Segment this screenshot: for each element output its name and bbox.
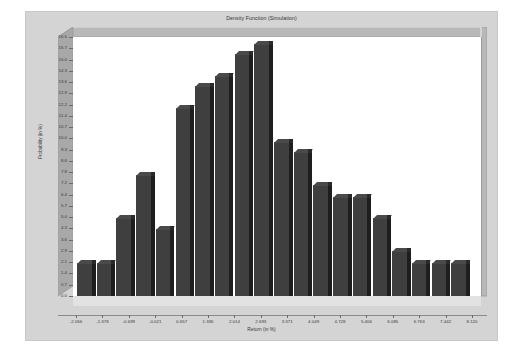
bar-side-face [170,230,174,296]
plot-floor [73,296,481,306]
x-axis: -2.056-1.378-0.699-0.0210.6571.3362.0142… [58,315,487,316]
y-axis-label: 14.3 [58,69,67,73]
y-axis-label: 2.9 [61,249,67,253]
y-axis-label: 2.1 [61,260,67,264]
x-axis-label: -1.378 [96,319,108,324]
bar-side-face [348,198,352,296]
y-axis-label: 4.3 [61,226,67,230]
y-axis-label: 15.7 [58,46,67,50]
bar-side-face [466,264,470,296]
x-axis-tick [287,315,288,318]
x-axis-label: 2.014 [229,319,240,324]
y-axis-title: Probability (in %) [38,124,43,159]
bar-side-face [111,264,115,296]
x-axis-tick [208,315,209,318]
bar-side-face [289,143,293,296]
bar [176,108,191,296]
x-axis-label: 4.049 [308,319,319,324]
x-axis-label: -0.699 [123,319,135,324]
bar [333,197,348,296]
x-axis-label: 8.120 [467,319,478,324]
plot-3d-box: 16.515.715.014.313.612.912.211.410.710.0… [58,27,487,313]
y-axis-label: 5.7 [61,204,67,208]
y-axis-label: 3.6 [61,238,67,242]
bar-side-face [426,264,430,296]
y-axis-label: 8.6 [61,159,67,163]
y-axis-label: 5.0 [61,215,67,219]
y-axis-label: 11.4 [59,114,67,118]
bar [77,263,92,296]
chart-panel: Density Function (Simulation) Probabilit… [25,11,498,341]
y-axis-label: 9.3 [61,148,67,152]
x-axis-tick [340,315,341,318]
bar-side-face [229,77,233,296]
bar [392,251,407,296]
y-axis-label: 0.7 [61,283,67,287]
x-axis-tick [419,315,420,318]
bar [274,142,289,296]
bar [136,175,151,296]
bar-side-face [190,109,194,296]
x-axis-label: 5.406 [361,319,372,324]
x-axis-label: 7.442 [440,319,451,324]
x-axis-label: 0.657 [176,319,187,324]
x-axis-tick [393,315,394,318]
bar [195,86,210,296]
x-axis-tick [472,315,473,318]
x-axis-label: 1.336 [203,319,214,324]
x-axis-tick [102,315,103,318]
bar [97,263,112,296]
bar [215,76,230,296]
bar-side-face [328,186,332,296]
bar [412,263,427,296]
bar-side-face [367,198,371,296]
y-axis-label: 10.0 [58,136,67,140]
bar-side-face [407,252,411,296]
x-axis-tick [129,315,130,318]
bar [353,197,368,296]
x-axis-tick [234,315,235,318]
y-axis-label: 15.0 [58,58,67,62]
y-axis-label: 1.4 [61,271,67,275]
bar-side-face [210,87,214,296]
x-axis-label: 4.728 [335,319,346,324]
bar-side-face [446,264,450,296]
y-axis: 16.515.715.014.313.612.912.211.410.710.0… [58,37,73,296]
y-axis-label: 12.2 [58,103,67,107]
x-axis-label: -2.056 [70,319,82,324]
x-axis-tick [261,315,262,318]
bar [451,263,466,296]
bar-side-face [151,176,155,296]
y-axis-label: 16.5 [58,35,67,39]
y-axis-label: 7.2 [61,181,67,185]
x-axis-tick [76,315,77,318]
bar [156,229,171,296]
y-axis-label: 7.8 [61,170,67,174]
bar-side-face [269,45,273,296]
bar-side-face [387,219,391,296]
y-axis-label: 12.9 [58,91,67,95]
chart-title: Density Function (Simulation) [25,15,498,21]
bar-side-face [249,55,253,296]
y-axis-label: 0.0 [61,294,67,298]
bar [313,185,328,296]
y-axis-label: 13.6 [58,80,67,84]
bar [432,263,447,296]
plot-area [73,37,482,296]
x-axis-label: -0.021 [149,319,161,324]
x-axis-tick [155,315,156,318]
bar [116,218,131,296]
bar-side-face [92,264,96,296]
bar [254,44,269,296]
bar [373,218,388,296]
x-axis-tick [366,315,367,318]
x-axis-label: 3.371 [282,319,293,324]
bars-group [73,37,481,296]
y-axis-label: 6.4 [61,193,67,197]
chart-window: Density Function (Simulation) Probabilit… [0,0,522,358]
bar-side-face [131,219,135,296]
x-axis-tick [182,315,183,318]
bar-side-face [308,153,312,296]
x-axis-tick [446,315,447,318]
x-axis-label: 6.085 [387,319,398,324]
